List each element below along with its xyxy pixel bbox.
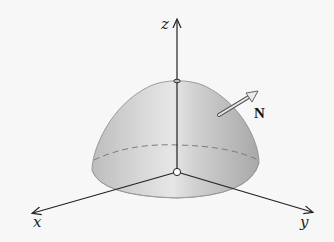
- vertex-marker: [174, 79, 180, 83]
- diagram-canvas: z x y N: [0, 0, 334, 242]
- normal-vector-label: N: [254, 105, 265, 121]
- origin-point: [173, 168, 180, 175]
- paraboloid-diagram: z x y N: [0, 0, 334, 242]
- paraboloid-surface: [92, 81, 259, 198]
- y-axis-label: y: [299, 213, 309, 231]
- z-axis-label: z: [160, 15, 169, 33]
- x-axis-label: x: [33, 213, 42, 231]
